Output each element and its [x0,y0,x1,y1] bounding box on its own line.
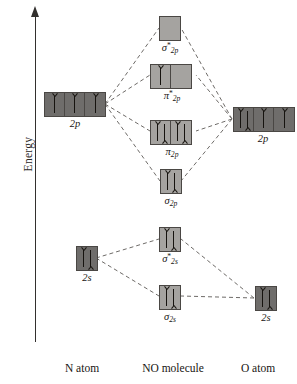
level-label-n-2s: 2s [66,272,108,283]
level-pi-2p [150,120,192,145]
orbital-boxes-pi-star-2p [150,64,192,89]
mo-diagram-figure: Energy [0,0,297,384]
level-label-pi-2p: π2p [150,146,194,159]
level-sigma-star-2s [159,227,181,252]
line-n2p-pi2p [105,104,150,131]
orbital-box [254,108,274,131]
electron-arrows [151,121,170,144]
level-label-sigma-2p: σ2p [150,195,192,208]
subscript: 2p [171,150,179,159]
electron-arrows [77,247,97,270]
electron-arrow-up [175,124,180,141]
orbital-boxes-o-2s [255,286,277,311]
orbital-box [256,287,276,310]
level-label-n-2p: 2p [44,118,106,129]
electron-arrow-up [261,111,266,128]
orbital-boxes-sigma-star-2p [159,16,181,41]
level-label-sigma-star-2p: σ*2p [149,42,191,55]
electron-arrow-up [93,96,98,113]
orbital-box [274,108,294,131]
orbital-box [171,65,191,88]
electron-arrow-down [172,173,177,190]
orbital-box [77,247,97,270]
orbital-boxes-sigma-star-2s [159,227,181,252]
electron-arrow-down [267,290,272,307]
electron-arrow-up [155,124,160,141]
correlation-lines [0,0,297,384]
line-o2p-pi2p [196,119,232,131]
level-label-o-2p: 2p [232,133,294,144]
electron-arrows [171,121,191,144]
orbital-box [160,286,180,309]
subscript: 2p [170,199,178,208]
orbital-box [85,93,105,116]
orbital-box [65,93,85,116]
level-label-sigma-star-2s: σ*2s [149,253,191,266]
electron-arrows [160,228,180,251]
level-sigma-2s [159,285,181,310]
column-caption-molecule: NO molecule [127,362,219,374]
orbital-box [151,65,171,88]
orbital-boxes-sigma-2s [159,285,181,310]
electron-arrow-up [165,173,170,190]
level-n-2p [44,92,106,117]
subscript: 2s [169,315,176,324]
column-caption-left-atom: N atom [44,362,120,374]
electron-arrows [256,287,276,310]
electron-arrow-down [171,289,176,306]
orbital-box [160,17,180,40]
line-o2s-sigmastar2s [181,239,254,298]
orbital-box [171,121,191,144]
electron-arrows [85,93,105,116]
electron-arrows [65,93,84,116]
line-o2s-sigma2s [181,296,254,298]
subscript: 2p [171,46,179,55]
electron-arrows [161,170,181,193]
electron-arrows [45,93,64,116]
electron-arrow-up [52,96,57,113]
energy-axis-label: Energy [22,119,34,189]
electron-arrows [160,286,180,309]
orbital-box [161,170,181,193]
orbital-boxes-n-2s [76,246,98,271]
orbital-boxes-sigma-2p [160,169,182,194]
orbital-boxes-o-2p [233,107,295,132]
line-o2p-pistar2p [196,75,232,119]
level-pi-star-2p [150,64,192,89]
column-caption-right-atom: O atom [225,362,291,374]
electron-arrows [151,65,170,88]
level-o-2s [255,286,277,311]
level-label-pi-star-2p: π*2p [150,90,194,103]
line-n2p-pistar2p [105,75,150,104]
level-label-o-2s: 2s [245,312,287,323]
electron-arrow-up [260,290,265,307]
energy-axis-shaft [35,14,36,342]
level-sigma-2p [160,169,182,194]
electron-arrows [274,108,294,131]
orbital-box [160,228,180,251]
electron-arrow-up [282,111,287,128]
electron-arrow-up [238,111,243,128]
level-n-2s [76,246,98,271]
electron-arrow-up [72,96,77,113]
electron-arrows [254,108,273,131]
orbital-box [151,121,171,144]
level-o-2p [233,107,295,132]
level-label-sigma-2s: σ2s [149,311,191,324]
electron-arrow-down [171,231,176,248]
electron-arrow-up [81,250,86,267]
electron-arrow-down [182,124,187,141]
electron-arrow-down [245,111,250,128]
electron-arrow-down [88,250,93,267]
subscript: 2p [173,94,181,103]
electron-arrow-up [164,231,169,248]
orbital-boxes-pi-2p [150,120,192,145]
electron-arrow-up [158,68,163,85]
orbital-boxes-n-2p [44,92,106,117]
electron-arrow-down [162,124,167,141]
orbital-box [45,93,65,116]
electron-arrow-up [164,289,169,306]
electron-arrows [234,108,253,131]
level-sigma-star-2p [159,16,181,41]
orbital-box [234,108,254,131]
